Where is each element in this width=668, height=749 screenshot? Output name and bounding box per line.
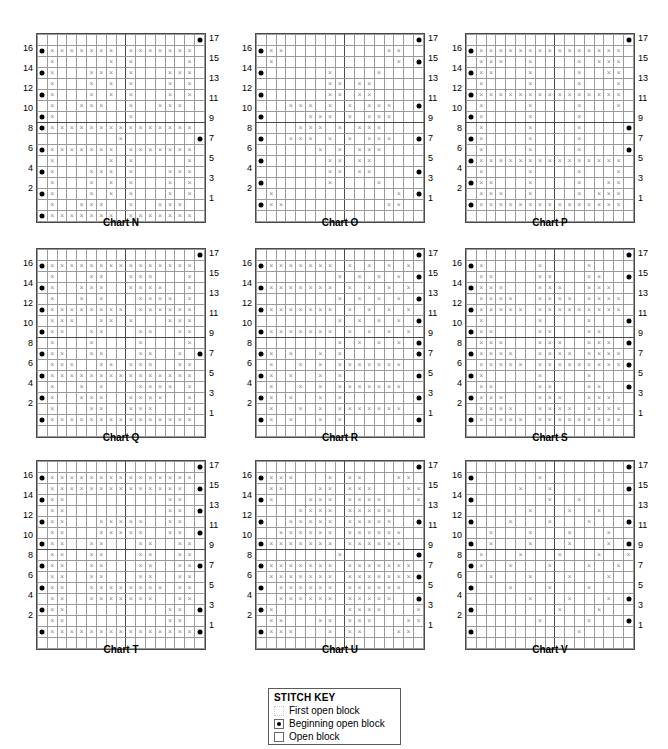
chart-cell[interactable] [315, 484, 325, 495]
chart-cell[interactable] [394, 495, 404, 506]
chart-cell[interactable] [276, 404, 286, 415]
chart-cell[interactable] [574, 189, 584, 200]
chart-cell[interactable] [325, 57, 335, 68]
chart-cell[interactable] [516, 462, 526, 473]
chart-cell[interactable] [604, 572, 614, 583]
chart-cell[interactable] [486, 594, 496, 605]
chart-cell[interactable] [315, 90, 325, 101]
chart-cell[interactable] [106, 178, 116, 189]
chart-cell[interactable] [195, 250, 205, 261]
chart-cell[interactable] [106, 605, 116, 616]
chart-cell[interactable] [195, 572, 205, 583]
chart-cell[interactable] [296, 316, 306, 327]
chart-cell[interactable] [384, 156, 394, 167]
chart-cell[interactable] [145, 261, 155, 272]
chart-cell[interactable] [57, 473, 67, 484]
chart-cell[interactable] [175, 178, 185, 189]
chart-cell[interactable] [574, 46, 584, 57]
chart-cell[interactable] [594, 79, 604, 90]
chart-cell[interactable] [364, 506, 374, 517]
chart-cell[interactable] [525, 528, 535, 539]
chart-cell[interactable] [476, 382, 486, 393]
chart-cell[interactable] [467, 167, 477, 178]
chart-cell[interactable] [286, 178, 296, 189]
chart-cell[interactable] [38, 305, 48, 316]
chart-cell[interactable] [175, 495, 185, 506]
chart-cell[interactable] [136, 572, 146, 583]
chart-cell[interactable] [496, 123, 506, 134]
chart-cell[interactable] [496, 484, 506, 495]
chart-cell[interactable] [77, 495, 87, 506]
chart-cell[interactable] [535, 90, 545, 101]
chart-cell[interactable] [175, 101, 185, 112]
chart-cell[interactable] [496, 189, 506, 200]
chart-cell[interactable] [364, 404, 374, 415]
chart-cell[interactable] [496, 167, 506, 178]
chart-cell[interactable] [584, 393, 594, 404]
chart-cell[interactable] [574, 404, 584, 415]
chart-cell[interactable] [525, 316, 535, 327]
chart-cell[interactable] [496, 594, 506, 605]
chart-cell[interactable] [87, 473, 97, 484]
chart-cell[interactable] [355, 627, 365, 638]
chart-cell[interactable] [286, 250, 296, 261]
chart-cell[interactable] [136, 506, 146, 517]
chart-cell[interactable] [325, 404, 335, 415]
chart-cell[interactable] [325, 539, 335, 550]
chart-cell[interactable] [374, 627, 384, 638]
chart-cell[interactable] [165, 35, 175, 46]
chart-cell[interactable] [574, 371, 584, 382]
chart-cell[interactable] [77, 415, 87, 426]
chart-cell[interactable] [38, 167, 48, 178]
chart-cell[interactable] [594, 178, 604, 189]
chart-cell[interactable] [47, 123, 57, 134]
chart-cell[interactable] [624, 178, 634, 189]
chart-cell[interactable] [47, 627, 57, 638]
chart-cell[interactable] [335, 561, 345, 572]
chart-cell[interactable] [555, 112, 565, 123]
chart-cell[interactable] [306, 605, 316, 616]
chart-cell[interactable] [155, 506, 165, 517]
chart-cell[interactable] [496, 178, 506, 189]
chart-cell[interactable] [394, 627, 404, 638]
chart-cell[interactable] [306, 283, 316, 294]
chart-cell[interactable] [116, 261, 126, 272]
chart-cell[interactable] [594, 506, 604, 517]
chart-cell[interactable] [155, 393, 165, 404]
chart-cell[interactable] [584, 283, 594, 294]
chart-cell[interactable] [106, 561, 116, 572]
chart-cell[interactable] [106, 484, 116, 495]
chart-cell[interactable] [467, 156, 477, 167]
chart-cell[interactable] [374, 68, 384, 79]
chart-cell[interactable] [57, 550, 67, 561]
chart-cell[interactable] [266, 272, 276, 283]
chart-cell[interactable] [496, 404, 506, 415]
chart-cell[interactable] [394, 594, 404, 605]
chart-cell[interactable] [516, 134, 526, 145]
chart-cell[interactable] [106, 583, 116, 594]
chart-cell[interactable] [555, 68, 565, 79]
chart-cell[interactable] [384, 305, 394, 316]
chart-cell[interactable] [355, 200, 365, 211]
chart-cell[interactable] [87, 294, 97, 305]
chart-cell[interactable] [335, 272, 345, 283]
chart-cell[interactable] [325, 35, 335, 46]
chart-cell[interactable] [414, 35, 424, 46]
chart-cell[interactable] [555, 594, 565, 605]
chart-cell[interactable] [486, 484, 496, 495]
chart-cell[interactable] [38, 35, 48, 46]
chart-cell[interactable] [325, 616, 335, 627]
chart-cell[interactable] [257, 134, 267, 145]
chart-cell[interactable] [496, 35, 506, 46]
chart-cell[interactable] [67, 495, 77, 506]
chart-cell[interactable] [195, 112, 205, 123]
chart-cell[interactable] [555, 167, 565, 178]
chart-cell[interactable] [257, 316, 267, 327]
chart-cell[interactable] [624, 316, 634, 327]
chart-cell[interactable] [266, 371, 276, 382]
chart-cell[interactable] [106, 46, 116, 57]
chart-cell[interactable] [286, 473, 296, 484]
chart-cell[interactable] [325, 316, 335, 327]
chart-cell[interactable] [555, 101, 565, 112]
chart-cell[interactable] [96, 462, 106, 473]
